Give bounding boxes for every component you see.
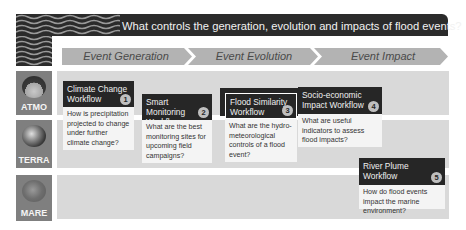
ocean-globe-icon [22, 180, 46, 202]
atmosphere-globe-icon [22, 76, 46, 98]
workflow-number-badge: 4 [368, 101, 379, 112]
workflow-number-badge: 5 [431, 172, 442, 183]
phase-event-impact: Event Impact [320, 48, 446, 65]
phase-banner: Event Generation Event Evolution Event I… [62, 48, 448, 65]
workflow-title: River Plume Workflow 5 [359, 158, 445, 185]
workflow-question: What are the hydro-meteorological contro… [225, 119, 297, 162]
phase-event-evolution: Event Evolution [192, 48, 316, 65]
workflow-question: What are useful indicators to assess flo… [298, 114, 382, 147]
workflow-title: Climate Change Workflow 1 [63, 81, 134, 107]
workflow-card-river-plume[interactable]: River Plume Workflow 5 How do flood even… [359, 158, 445, 209]
workflow-number-badge: 3 [282, 105, 293, 116]
phase-event-generation: Event Generation [62, 48, 190, 65]
workflow-card-flood-similarity[interactable]: Flood Similarity Workflow 3 What are the… [225, 93, 297, 162]
wave-decoration-icon [16, 14, 120, 36]
row-label-atmo: ATMO [16, 71, 52, 115]
workflow-question: How is precipitation projected to change… [63, 107, 134, 150]
workflow-title: Flood Similarity Workflow 3 [225, 93, 297, 119]
workflow-title: Smart Monitoring Workflow 2 [142, 94, 212, 120]
wave-decoration-side-icon [16, 36, 52, 66]
workflow-card-climate-change[interactable]: Climate Change Workflow 1 How is precipi… [63, 81, 134, 150]
row-label-terra: TERRA [16, 120, 52, 168]
workflow-question: How do flood events impact the marine en… [359, 185, 445, 209]
workflow-card-socio-economic-impact[interactable]: Socio-economic Impact Workflow 4 What ar… [298, 87, 382, 147]
earth-globe-icon [22, 125, 46, 147]
workflow-number-badge: 1 [120, 94, 131, 105]
page-title: What controls the generation, evolution … [122, 18, 448, 34]
workflow-title: Socio-economic Impact Workflow 4 [298, 87, 382, 114]
row-label-mare: MARE [16, 175, 52, 221]
workflow-number-badge: 2 [198, 107, 209, 118]
workflow-card-smart-monitoring[interactable]: Smart Monitoring Workflow 2 What are the… [142, 94, 212, 163]
